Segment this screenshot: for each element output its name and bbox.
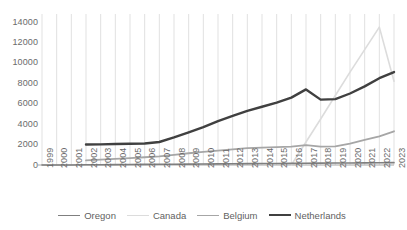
legend-item-label: Netherlands bbox=[295, 210, 346, 221]
legend-item-label: Canada bbox=[153, 210, 186, 221]
x-axis-tick-label: 2008 bbox=[178, 148, 187, 168]
x-axis-tick-label: 2012 bbox=[236, 148, 245, 168]
x-axis-tick-label: 2013 bbox=[251, 148, 260, 168]
x-axis-tick-label: 2023 bbox=[398, 148, 407, 168]
legend-item-netherlands[interactable]: Netherlands bbox=[269, 210, 346, 221]
legend-item-belgium[interactable]: Belgium bbox=[197, 210, 257, 221]
x-axis-tick-label: 2000 bbox=[60, 148, 69, 168]
legend-swatch-line-icon bbox=[269, 214, 291, 216]
x-axis-tick-label: 1999 bbox=[46, 148, 55, 168]
legend-swatch-line-icon bbox=[127, 215, 149, 216]
legend-item-canada[interactable]: Canada bbox=[127, 210, 186, 221]
x-axis-tick-label: 2015 bbox=[280, 148, 289, 168]
x-axis-tick-label: 2003 bbox=[104, 148, 113, 168]
x-axis-tick-label: 2004 bbox=[119, 148, 128, 168]
x-axis-tick-label: 2002 bbox=[90, 148, 99, 168]
x-axis-tick-label: 2010 bbox=[207, 148, 216, 168]
legend-item-oregon[interactable]: Oregon bbox=[58, 210, 116, 221]
x-axis-tick-label: 2022 bbox=[383, 148, 392, 168]
legend-item-label: Oregon bbox=[84, 210, 116, 221]
x-axis-tick-label: 2021 bbox=[368, 148, 377, 168]
x-axis-tick-label: 2011 bbox=[222, 148, 231, 168]
x-axis-tick-label: 2009 bbox=[192, 148, 201, 168]
x-axis-tick-label: 2007 bbox=[163, 148, 172, 168]
legend-swatch-line-icon bbox=[58, 215, 80, 216]
x-axis-tick-label: 2006 bbox=[148, 148, 157, 168]
x-axis-tick-label: 2018 bbox=[324, 148, 333, 168]
x-axis-tick-label: 2001 bbox=[75, 148, 84, 168]
x-axis-tick-label: 2017 bbox=[310, 148, 319, 168]
legend-item-label: Belgium bbox=[223, 210, 257, 221]
x-axis-tick-label: 2014 bbox=[266, 148, 275, 168]
chart-legend: OregonCanadaBelgiumNetherlands bbox=[0, 205, 404, 225]
x-axis-tick-label: 2020 bbox=[354, 148, 363, 168]
legend-swatch-line-icon bbox=[197, 215, 219, 216]
x-axis-tick-label: 2016 bbox=[295, 148, 304, 168]
x-axis-tick-label: 2005 bbox=[134, 148, 143, 168]
x-axis-tick-label: 2019 bbox=[339, 148, 348, 168]
